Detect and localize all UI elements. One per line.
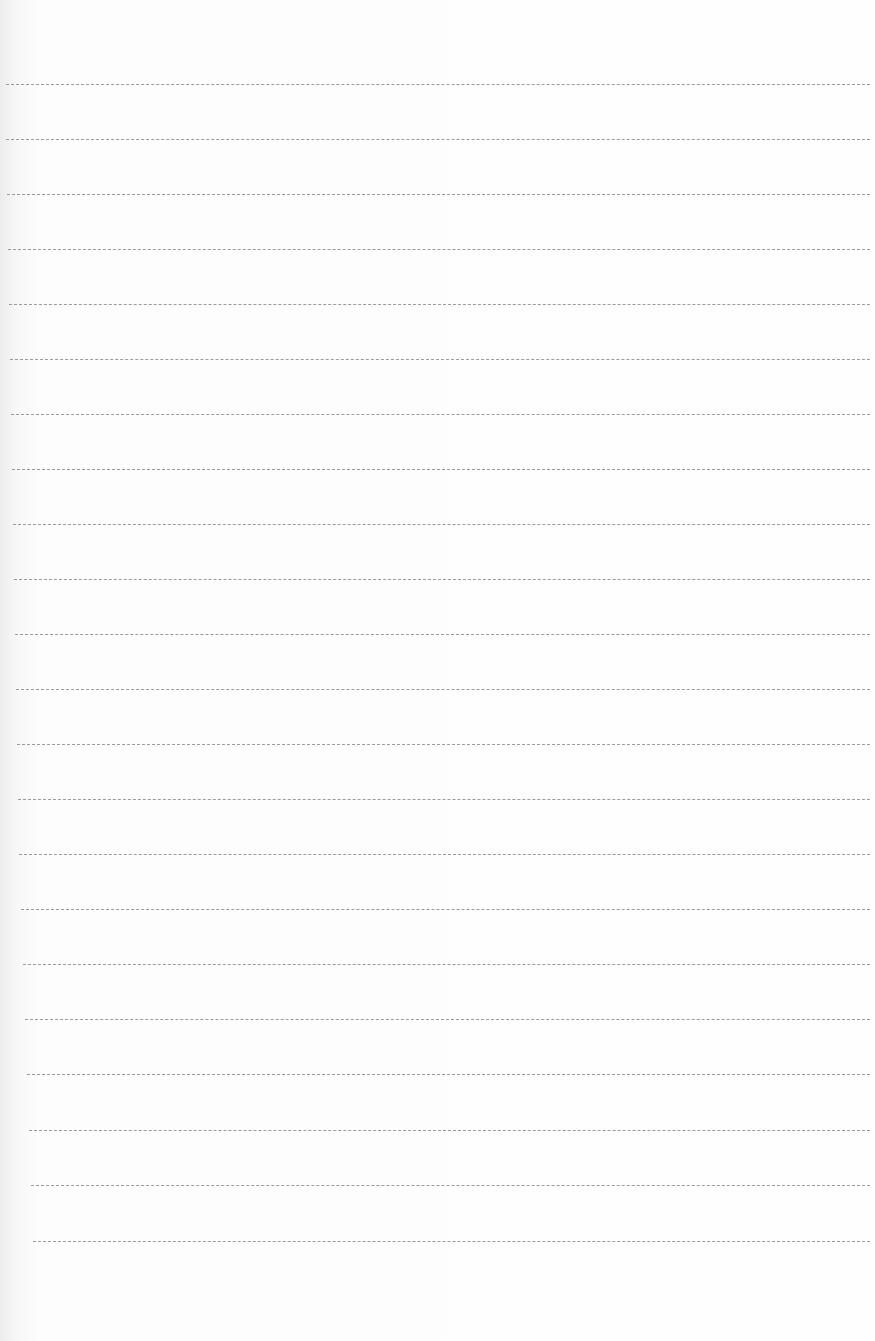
ruled-line <box>11 414 870 415</box>
ruled-line <box>7 194 870 195</box>
ruled-line <box>16 689 870 690</box>
ruled-line <box>6 139 870 140</box>
ruled-line <box>6 84 870 85</box>
ruled-line <box>31 1185 870 1186</box>
ruled-line <box>9 304 870 305</box>
ruled-line <box>19 854 870 855</box>
ruled-line <box>17 744 870 745</box>
ruled-line <box>10 359 870 360</box>
ruled-line <box>13 524 870 525</box>
ruled-line <box>23 964 870 965</box>
ruled-line <box>25 1019 870 1020</box>
ruled-line <box>8 249 870 250</box>
ruled-line <box>18 799 870 800</box>
ruled-line <box>27 1074 870 1075</box>
ruled-line <box>12 469 870 470</box>
ruled-line <box>14 579 870 580</box>
ruled-line <box>21 909 870 910</box>
lined-paper <box>0 0 875 1341</box>
ruled-line <box>33 1241 870 1242</box>
ruled-line <box>15 634 870 635</box>
ruled-line <box>29 1130 870 1131</box>
